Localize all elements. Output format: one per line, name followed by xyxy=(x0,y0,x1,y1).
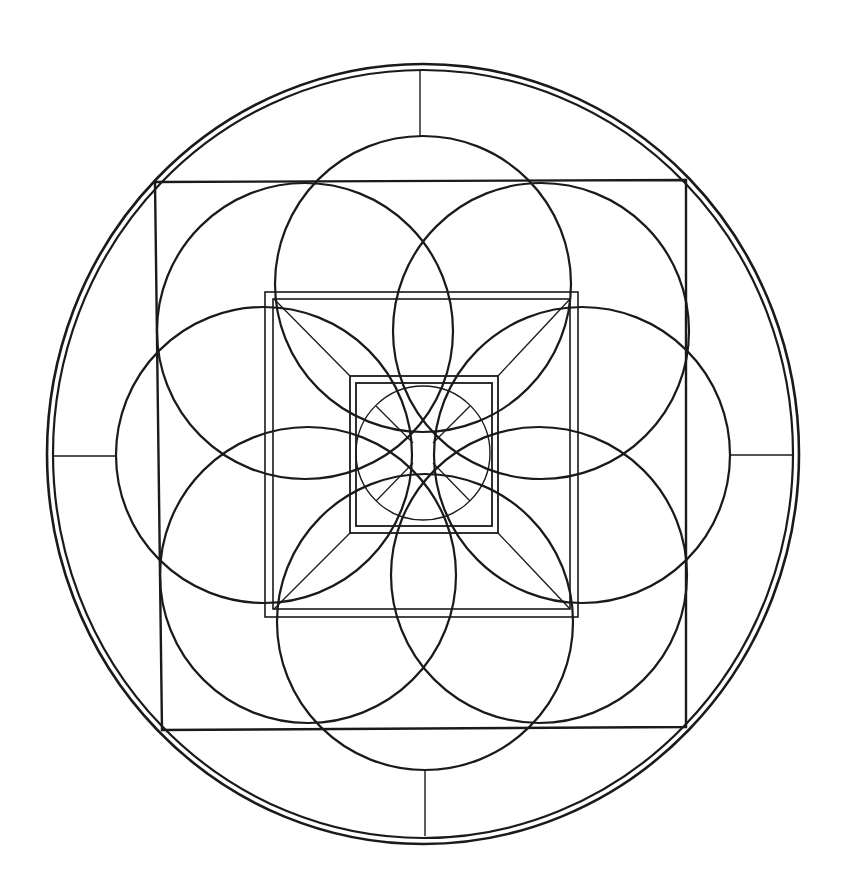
corner-diagonal-line xyxy=(498,299,570,376)
ring-spokes xyxy=(54,71,792,836)
corner-diagonals xyxy=(274,299,570,609)
corner-diagonal-line xyxy=(498,533,570,609)
inner-double-square xyxy=(350,376,498,533)
center-dot xyxy=(421,451,424,454)
petal-circles xyxy=(116,136,730,770)
petal-circle xyxy=(393,183,689,479)
mandala-drawing xyxy=(0,0,853,890)
center-dot xyxy=(421,451,424,454)
big-square-outline xyxy=(155,180,686,730)
inner-square-outer-line xyxy=(350,376,498,533)
petal-circle xyxy=(277,474,573,770)
big-square xyxy=(155,180,686,730)
inner-ring-line xyxy=(53,70,793,838)
